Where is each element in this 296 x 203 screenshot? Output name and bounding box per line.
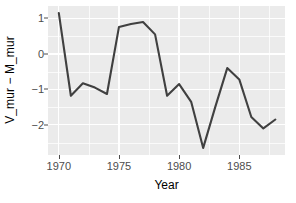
y-axis-tick-label: −1 bbox=[22, 84, 44, 95]
x-axis-title: Year bbox=[48, 178, 285, 192]
x-axis-tick-label: 1985 bbox=[227, 160, 251, 173]
y-axis-tick-label: −2 bbox=[22, 119, 44, 130]
x-axis-tick-label: 1975 bbox=[107, 160, 131, 173]
y-axis-tick-label: 0 bbox=[22, 48, 44, 59]
x-axis-tick-mark bbox=[239, 155, 240, 159]
x-axis-tick-label: 1980 bbox=[167, 160, 191, 173]
x-axis-tick-mark bbox=[179, 155, 180, 159]
x-axis-tick-label: 1970 bbox=[47, 160, 71, 173]
y-axis-title-text: V_mur − M_mur bbox=[3, 36, 17, 124]
y-axis-tick-label: 1 bbox=[22, 13, 44, 24]
data-line bbox=[48, 6, 285, 155]
line-chart: V_mur − M_mur 10−1−2 1970197519801985 Ye… bbox=[0, 0, 296, 203]
y-axis-tick-labels: 10−1−2 bbox=[18, 0, 44, 160]
plot-panel bbox=[48, 6, 285, 155]
y-axis-title: V_mur − M_mur bbox=[0, 0, 20, 160]
x-axis-tick-mark bbox=[119, 155, 120, 159]
x-axis-tick-mark bbox=[59, 155, 60, 159]
x-axis-tick-labels: 1970197519801985 bbox=[48, 160, 285, 176]
data-series-polyline bbox=[59, 13, 276, 148]
x-axis-tick-marks bbox=[48, 155, 285, 159]
